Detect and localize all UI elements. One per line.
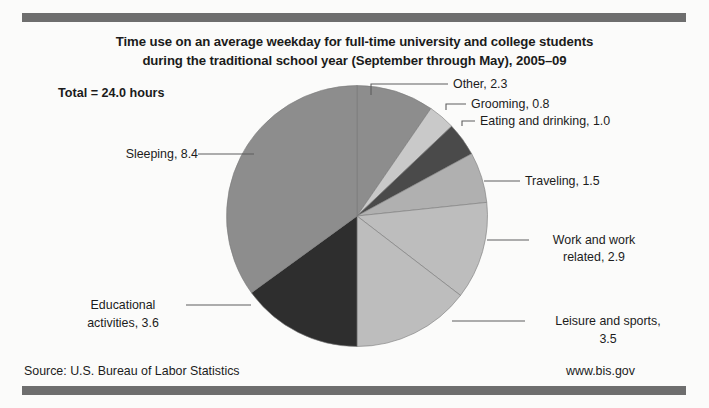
total-hours-note: Total = 24.0 hours: [58, 86, 165, 100]
slice-label-traveling: Traveling, 1.5: [525, 173, 600, 189]
source-note: Source: U.S. Bureau of Labor Statistics: [24, 364, 240, 378]
slice-label-education-line-1: Educational: [60, 297, 186, 313]
chart-title-line-1: Time use on an average weekday for full-…: [0, 32, 709, 51]
slice-label-work-line-1: Work and work: [529, 232, 659, 248]
slice-label-leisure-line-1: Leisure and sports,: [528, 313, 688, 329]
slice-label-sleeping: Sleeping, 8.4: [38, 146, 198, 162]
figure-canvas: Time use on an average weekday for full-…: [0, 0, 709, 408]
top-divider-rule: [22, 13, 686, 22]
bottom-divider-rule: [22, 386, 686, 395]
slice-label-grooming: Grooming, 0.8: [471, 96, 550, 112]
website-note: www.bis.gov: [566, 364, 635, 378]
pie-chart: [226, 85, 488, 347]
slice-label-other: Other, 2.3: [453, 76, 507, 92]
slice-label-eating-and-drinking: Eating and drinking, 1.0: [480, 113, 610, 129]
slice-label-leisure-line-2: 3.5: [528, 331, 688, 347]
pie-svg: [226, 85, 488, 347]
slice-label-work-line-2: related, 2.9: [529, 249, 659, 265]
slice-label-education-line-2: activities, 3.6: [60, 315, 186, 331]
chart-title-line-2: during the traditional school year (Sept…: [0, 51, 709, 70]
